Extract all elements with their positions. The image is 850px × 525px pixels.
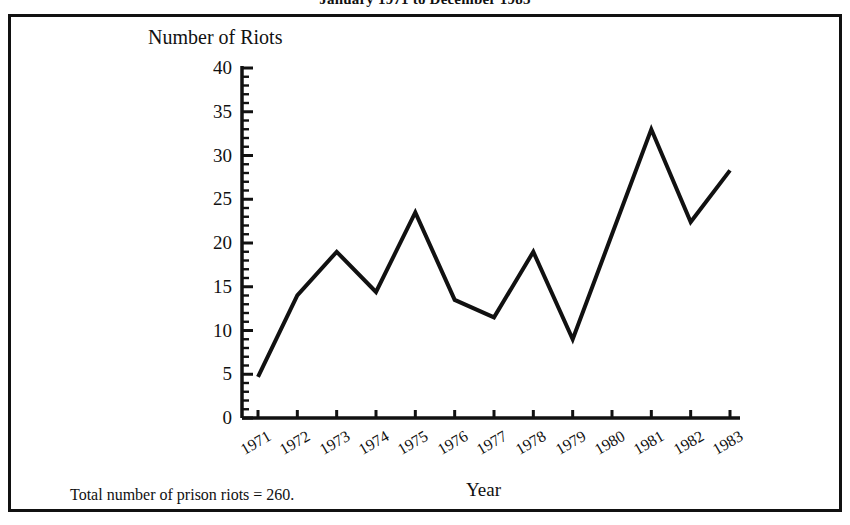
y-tick-label: 25 [190, 189, 232, 208]
y-tick-label: 35 [190, 102, 232, 121]
y-tick-label: 5 [190, 364, 232, 383]
y-tick-label: 15 [190, 277, 232, 296]
y-tick-label: 30 [190, 146, 232, 165]
figure-page: January 1971 to December 1983 Number of … [0, 0, 850, 525]
y-tick-label: 20 [190, 233, 232, 252]
y-tick-label: 0 [190, 408, 232, 427]
page-title: January 1971 to December 1983 [0, 0, 850, 9]
chart-footnote: Total number of prison riots = 260. [70, 486, 294, 504]
y-tick-label: 40 [190, 58, 232, 77]
y-tick-label: 10 [190, 321, 232, 340]
y-axis-title: Number of Riots [148, 26, 282, 49]
x-axis-title: Year [466, 479, 501, 501]
